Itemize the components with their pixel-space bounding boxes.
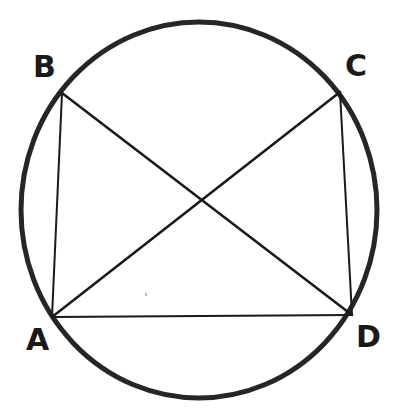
segment-cd — [340, 92, 352, 315]
geometry-canvas — [0, 0, 403, 420]
diagonal-bd — [62, 93, 352, 315]
diagonal-ac — [52, 92, 340, 317]
segment-ad — [52, 315, 352, 317]
segment-ab — [52, 93, 62, 317]
vertex-label-d: D — [356, 322, 381, 352]
scan-speck-artifact — [145, 293, 147, 296]
vertex-label-b: B — [33, 52, 56, 82]
vertex-label-c: C — [345, 51, 367, 81]
circumscribed-circle — [21, 22, 377, 398]
geometry-figure: A B C D — [0, 0, 403, 420]
vertex-label-a: A — [26, 325, 49, 355]
